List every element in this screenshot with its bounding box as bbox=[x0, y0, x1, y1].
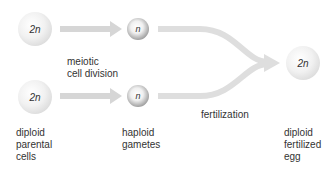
fertilization-arrow-top bbox=[158, 29, 268, 62]
haploid-gamete-top: n bbox=[127, 18, 149, 40]
ploidy-label: n bbox=[135, 24, 140, 34]
diploid-parent-cell-bottom: 2n bbox=[18, 80, 52, 114]
meiosis-label: meiotic cell division bbox=[67, 56, 118, 80]
ploidy-label: 2n bbox=[297, 58, 308, 69]
ploidy-label: 2n bbox=[29, 24, 40, 35]
meiosis-arrow-bottom bbox=[60, 93, 112, 99]
gametes-label: haploid gametes bbox=[122, 127, 160, 151]
diploid-parent-cell-top: 2n bbox=[18, 12, 52, 46]
meiosis-arrow-top bbox=[60, 26, 112, 32]
fertilization-label: fertilization bbox=[201, 109, 249, 121]
fertilization-arrow-bottom bbox=[158, 64, 268, 96]
fertilized-egg-label: diploid fertilized egg bbox=[284, 127, 321, 163]
ploidy-label: 2n bbox=[29, 92, 40, 103]
parent-cells-label: diploid parental cells bbox=[16, 127, 52, 163]
haploid-gamete-bottom: n bbox=[127, 85, 149, 107]
fertilized-egg: 2n bbox=[286, 46, 320, 80]
ploidy-label: n bbox=[135, 91, 140, 101]
